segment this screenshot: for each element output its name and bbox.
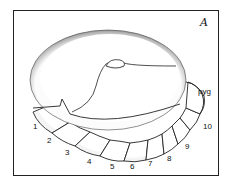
segment-label-3: 3 <box>65 149 69 157</box>
segment-label-8: 8 <box>167 155 171 163</box>
segment-label-7: 7 <box>148 160 152 168</box>
segment-label-1: 1 <box>33 123 37 131</box>
segment-label-4: 4 <box>87 158 91 166</box>
segment-label-9: 9 <box>185 143 189 151</box>
segment-label-5: 5 <box>110 163 114 171</box>
segment-label-2: 2 <box>47 137 51 145</box>
segment-label-10: 10 <box>203 123 212 131</box>
segment-label-6: 6 <box>130 163 134 171</box>
panel-label: A <box>200 16 208 29</box>
pygidium-label: pyg <box>198 88 211 96</box>
